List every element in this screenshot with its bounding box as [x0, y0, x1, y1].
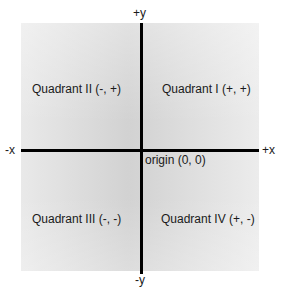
quadrant-iv-label: Quadrant IV (+, -) [161, 212, 255, 226]
positive-y-label: +y [133, 6, 146, 20]
quadrant-iii-label: Quadrant III (-, -) [32, 212, 121, 226]
positive-x-label: +x [262, 143, 275, 157]
quadrant-i-label: Quadrant I (+, +) [162, 82, 251, 96]
x-axis-line [21, 149, 259, 152]
quadrant-ii-label: Quadrant II (-, +) [32, 82, 121, 96]
negative-y-label: -y [135, 273, 145, 287]
origin-label: origin (0, 0) [145, 153, 206, 167]
negative-x-label: -x [5, 143, 15, 157]
